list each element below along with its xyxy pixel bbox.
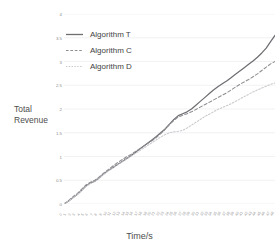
legend-item-algorithm-c: Algorithm C [66, 42, 186, 58]
x-axis-tick-label: 8 [94, 213, 98, 217]
y-axis-tick-label: 3.5 [56, 35, 62, 40]
y-axis-tick-label: 3 [60, 59, 62, 64]
y-axis-tick-label: 1 [60, 154, 62, 159]
y-axis-tick-label: 0 [60, 202, 62, 207]
y-axis-tick-label: 0.5 [56, 178, 62, 183]
x-axis-tick-label: 48 [270, 211, 275, 216]
legend-label-algorithm-t: Algorithm T [90, 30, 131, 39]
y-axis-tick-label: 4 [60, 12, 62, 17]
line-chart: Total Revenue 00.511.522.533.54 Algorith… [0, 0, 279, 251]
legend-label-algorithm-c: Algorithm C [90, 46, 132, 55]
x-axis-tick-label: 3 [72, 213, 76, 217]
legend-swatch-dashed-icon [66, 50, 83, 51]
x-axis-title: Time/s [0, 231, 279, 241]
legend-item-algorithm-d: Algorithm D [66, 58, 186, 74]
x-axis-tick-labels: 0123456789101112131415161718192021222324… [64, 205, 275, 227]
legend-item-algorithm-t: Algorithm T [66, 26, 186, 42]
series-line-algorithm-d [64, 83, 275, 204]
legend-label-algorithm-d: Algorithm D [90, 62, 132, 71]
legend-swatch-solid-icon [66, 34, 83, 35]
legend-swatch-dotted-icon [66, 66, 83, 67]
y-axis-tick-label: 2.5 [56, 83, 62, 88]
y-axis-tick-label: 2 [60, 107, 62, 112]
y-axis-tick-label: 1.5 [56, 130, 62, 135]
chart-legend: Algorithm T Algorithm C Algorithm D [66, 26, 186, 74]
